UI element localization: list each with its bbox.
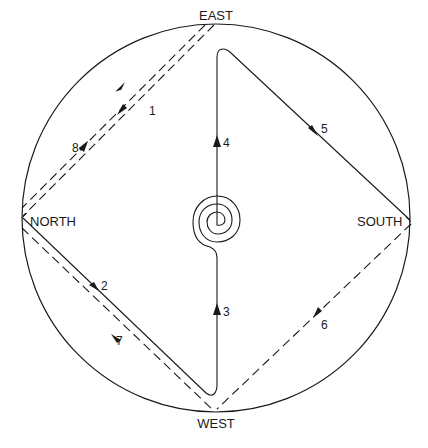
arrow-4-icon: [213, 135, 221, 147]
label-north: NORTH: [30, 214, 76, 229]
arrow-6-icon: [313, 307, 322, 318]
step-label-7: 7: [116, 334, 123, 348]
arrow-1-icon: [116, 82, 125, 91]
label-east: EAST: [199, 8, 233, 23]
step-label-5: 5: [321, 122, 328, 136]
label-west: WEST: [197, 416, 235, 431]
segment-1-line: [23, 25, 214, 216]
step-label-3: 3: [223, 305, 230, 319]
boundary-circle: [22, 24, 410, 412]
step-label-4: 4: [223, 136, 230, 150]
segment-5-line: [231, 53, 410, 220]
movement-diagram: EAST NORTH SOUTH WEST 1 2 3 4 5 6 7 8: [0, 0, 428, 448]
label-south: SOUTH: [357, 214, 403, 229]
step-label-1: 1: [149, 104, 156, 118]
arrow-3-icon: [213, 303, 221, 315]
path-east-north-dashed: [22, 25, 214, 216]
segment-4-line: [217, 49, 231, 218]
arrow-1-icon-main: [117, 104, 127, 115]
step-label-6: 6: [321, 318, 328, 332]
segment-3-line: [206, 258, 217, 395]
segment-2-line: [23, 218, 206, 393]
step-label-2: 2: [101, 279, 108, 293]
step-label-8: 8: [72, 141, 79, 155]
arrow-2-icon: [89, 282, 99, 291]
segment-8-line: [22, 25, 205, 208]
